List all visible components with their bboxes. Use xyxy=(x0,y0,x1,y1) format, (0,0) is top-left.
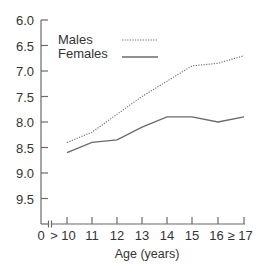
x-tick-label: 11 xyxy=(85,228,99,243)
y-tick-label: 8.0 xyxy=(16,115,34,130)
chart: 6.0 6.5 7.0 7.5 8.0 8.5 9.0 9.5 0 > 10 1… xyxy=(0,0,262,270)
x-tick-label: 14 xyxy=(160,228,174,243)
x-axis-title: Age (years) xyxy=(115,247,180,261)
legend: Males Females xyxy=(58,32,158,61)
y-tick-label: 6.5 xyxy=(16,39,34,54)
x-tick-label: 0 xyxy=(37,228,44,243)
y-tick-labels: 6.0 6.5 7.0 7.5 8.0 8.5 9.0 9.5 xyxy=(16,13,34,207)
x-tick-label: 16 ≥ 17 xyxy=(209,228,252,243)
series-line-males xyxy=(67,56,244,143)
legend-label-males: Males xyxy=(58,32,93,47)
x-tick-label: 12 xyxy=(110,228,124,243)
x-ticks xyxy=(67,217,244,224)
y-tick-label: 7.0 xyxy=(16,64,34,79)
x-tick-labels: 0 > 10 11 12 13 14 15 16 ≥ 17 xyxy=(37,228,252,243)
y-ticks xyxy=(41,20,48,199)
y-tick-label: 6.0 xyxy=(16,13,34,28)
x-axis xyxy=(41,221,245,228)
x-tick-label: 13 xyxy=(135,228,149,243)
x-tick-label: 15 xyxy=(185,228,199,243)
y-tick-label: 8.5 xyxy=(16,141,34,156)
series-line-females xyxy=(67,117,244,153)
x-tick-label: > 10 xyxy=(50,228,76,243)
legend-label-females: Females xyxy=(58,46,108,61)
y-tick-label: 9.0 xyxy=(16,166,34,181)
y-tick-label: 9.5 xyxy=(16,192,34,207)
y-tick-label: 7.5 xyxy=(16,90,34,105)
